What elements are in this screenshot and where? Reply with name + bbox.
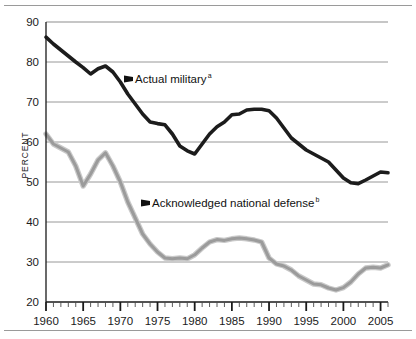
x-tick-label: 1995: [293, 315, 319, 327]
y-tick-label: 30: [26, 256, 39, 268]
top-divider-rule: [4, 5, 412, 6]
y-tick-label: 90: [26, 16, 39, 28]
line-chart-plot: 2030405060708090 19601965197019751980198…: [0, 0, 416, 339]
gridlines-group: [46, 22, 388, 262]
data-series-group: [46, 37, 388, 290]
annotation-arrow-icon: [141, 199, 150, 206]
x-tick-label: 1990: [256, 315, 282, 327]
y-tick-label: 80: [26, 56, 39, 68]
y-tick-label: 70: [26, 96, 39, 108]
x-tick-label: 2005: [368, 315, 394, 327]
x-tick-label: 1960: [33, 315, 59, 327]
x-tick-label: 2000: [331, 315, 357, 327]
y-tick-label: 40: [26, 216, 39, 228]
x-tick-label: 1965: [70, 315, 96, 327]
annotation-label: Actual military: [135, 73, 207, 85]
x-axis-group: [46, 302, 388, 311]
annotation-footnote-marker: a: [208, 72, 212, 79]
annotation-footnote-marker: b: [316, 196, 320, 203]
x-tick-label: 1975: [145, 315, 171, 327]
x-tick-label: 1985: [219, 315, 245, 327]
annotations-group: Actual militaryaAcknowledged national de…: [124, 72, 320, 209]
series-line-halo: [46, 134, 388, 290]
annotation-arrow-icon: [124, 75, 133, 82]
chart-figure: PERCENT 2030405060708090 196019651970197…: [0, 0, 416, 339]
y-axis-title: PERCENT: [20, 110, 30, 200]
annotation-label: Acknowledged national defense: [152, 197, 314, 209]
x-tick-label: 1980: [182, 315, 208, 327]
bottom-divider-rule: [4, 330, 412, 331]
y-tick-label: 20: [26, 296, 39, 308]
x-tick-labels-group: 1960196519701975198019851990199520002005: [33, 315, 393, 327]
x-tick-label: 1970: [108, 315, 134, 327]
